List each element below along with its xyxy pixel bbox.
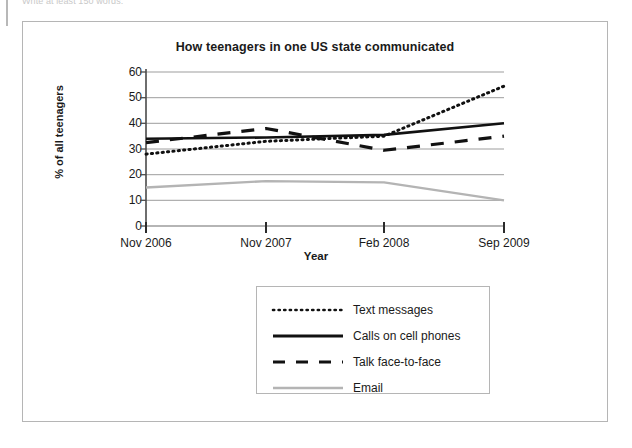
top-instruction-text: Write at least 150 words.	[22, 0, 123, 6]
legend-swatch-dashed	[271, 355, 345, 369]
legend-item-talk-face-to-face[interactable]: Talk face-to-face	[257, 349, 489, 375]
chart-legend: Text messages Calls on cell phones Talk …	[256, 286, 490, 394]
legend-item-calls-on-cell-phones[interactable]: Calls on cell phones	[257, 323, 489, 349]
series-line-email	[146, 181, 504, 200]
legend-swatch-email	[271, 381, 345, 395]
series-layer	[146, 86, 504, 200]
figure-frame: How teenagers in one US state communicat…	[22, 21, 608, 422]
y-axis-ticks	[140, 72, 146, 226]
line-chart-svg	[23, 22, 609, 282]
x-axis-ticks	[146, 222, 504, 233]
legend-label-calls-on-cell-phones: Calls on cell phones	[353, 329, 460, 343]
legend-label-talk-face-to-face: Talk face-to-face	[353, 355, 441, 369]
legend-label-email: Email	[353, 381, 383, 395]
legend-label-text-messages: Text messages	[353, 303, 433, 317]
series-line-text-messages	[146, 86, 504, 154]
legend-swatch-solid	[271, 329, 345, 343]
legend-item-email[interactable]: Email	[257, 375, 489, 401]
legend-item-text-messages[interactable]: Text messages	[257, 297, 489, 323]
page-left-rule	[6, 0, 8, 26]
legend-swatch-dotted	[271, 303, 345, 317]
